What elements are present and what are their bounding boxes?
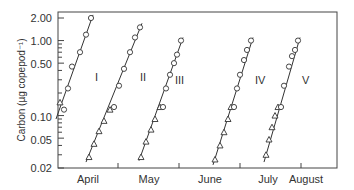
cohort-label-IV: IV <box>255 74 266 86</box>
circle-marker <box>132 35 137 40</box>
circle-marker <box>248 38 253 43</box>
y-ticks <box>58 18 64 168</box>
circle-marker <box>65 86 70 91</box>
cohort-I <box>56 15 94 119</box>
y-tick-label-0.50: 0.50 <box>31 58 52 70</box>
month-label-july: July <box>258 173 278 185</box>
month-label-june: June <box>198 173 222 185</box>
circle-marker <box>234 86 239 91</box>
triangle-marker <box>138 154 144 160</box>
data-series <box>56 15 301 165</box>
circle-marker <box>77 50 82 55</box>
circle-marker <box>174 52 179 57</box>
circle-marker <box>163 86 168 91</box>
circle-marker <box>137 25 142 30</box>
circle-marker <box>289 54 294 59</box>
circle-marker <box>83 32 88 37</box>
triangle-marker <box>143 139 149 145</box>
month-label-may: May <box>139 173 160 185</box>
circle-marker <box>127 50 132 55</box>
circle-marker <box>116 83 121 88</box>
circle-marker <box>292 47 297 52</box>
triangle-marker <box>212 156 218 162</box>
y-tick-label-1.00: 1.00 <box>31 35 52 47</box>
triangle-marker <box>148 127 154 133</box>
circle-marker <box>295 38 300 43</box>
triangle-marker <box>225 116 231 122</box>
circle-marker <box>61 107 66 112</box>
circle-marker <box>237 72 242 77</box>
circle-marker <box>111 104 116 109</box>
circle-marker <box>281 83 286 88</box>
cohort-label-V: V <box>302 74 310 86</box>
cohort-III <box>138 37 184 160</box>
circle-marker <box>244 47 249 52</box>
circle-marker <box>88 15 93 20</box>
triangle-marker <box>101 118 107 124</box>
circle-marker <box>171 61 176 66</box>
circle-marker <box>241 57 246 62</box>
cohort-V <box>263 37 301 162</box>
circle-marker <box>167 72 172 77</box>
triangle-marker <box>86 154 92 160</box>
cohort-label-I: I <box>95 71 98 83</box>
triangle-marker <box>152 116 158 122</box>
y-tick-label-0.02: 0.02 <box>31 162 52 174</box>
triangle-marker <box>263 152 269 158</box>
cohort-label-III: III <box>175 74 184 86</box>
circle-marker <box>231 104 236 109</box>
circle-marker <box>178 38 183 43</box>
triangle-marker <box>96 128 102 134</box>
circle-marker <box>286 64 291 69</box>
y-tick-label-0.10: 0.10 <box>31 111 52 123</box>
circle-marker <box>278 104 283 109</box>
triangle-marker <box>221 129 227 135</box>
month-label-august: August <box>289 173 323 185</box>
chart: 2.00 1.00 0.50 0.10 0.05 0.02 Carbon (µg… <box>0 0 354 190</box>
cohort-label-II: II <box>140 71 146 83</box>
circle-marker <box>121 66 126 71</box>
month-label-april: April <box>77 173 99 185</box>
plot-frame <box>58 12 337 168</box>
y-tick-label-2.00: 2.00 <box>31 12 52 24</box>
circle-marker <box>160 104 165 109</box>
cohort-II <box>86 23 143 162</box>
y-axis-title: Carbon (µg copepod⁻¹) <box>16 38 27 141</box>
cohort-IV <box>212 37 254 164</box>
triangle-marker <box>217 142 223 148</box>
y-tick-label-0.05: 0.05 <box>31 134 52 146</box>
triangle-marker <box>91 141 97 147</box>
circle-marker <box>69 64 74 69</box>
